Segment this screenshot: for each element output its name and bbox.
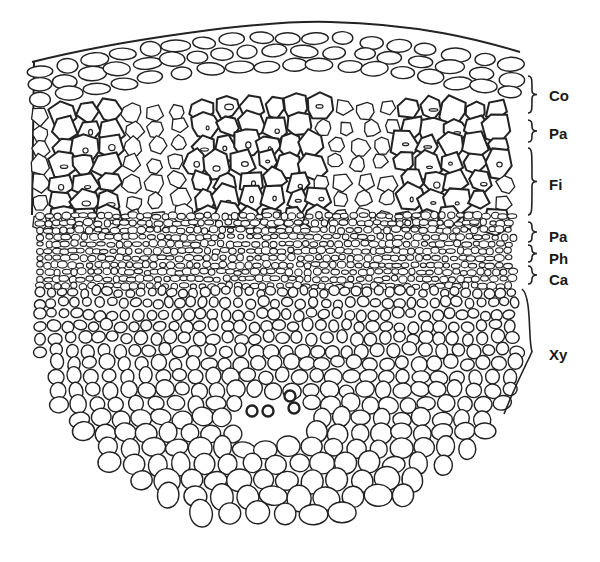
label-parenchyma-inner: Pa bbox=[549, 229, 567, 244]
label-phloem: Ph bbox=[549, 251, 568, 266]
label-fibres: Fi bbox=[549, 177, 562, 192]
label-xylem: Xy bbox=[549, 347, 567, 362]
stem-cross-section-drawing bbox=[0, 0, 600, 562]
label-parenchyma-outer: Pa bbox=[549, 126, 567, 141]
label-cambium: Ca bbox=[549, 272, 568, 287]
cell-layers bbox=[27, 31, 526, 529]
label-cortex: Co bbox=[549, 88, 569, 103]
